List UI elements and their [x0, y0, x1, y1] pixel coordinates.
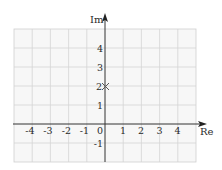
y-tick-label: 3 — [97, 62, 103, 73]
y-tick-label: 4 — [97, 43, 103, 54]
y-tick-label: -1 — [94, 138, 103, 149]
x-tick-labels: -4 -3 -2 -1 0 1 2 3 4 — [25, 125, 180, 136]
x-tick-label: -3 — [43, 125, 52, 136]
x-tick-label: -4 — [25, 125, 34, 136]
y-tick-label: 1 — [97, 100, 103, 111]
x-tick-label: 1 — [120, 125, 126, 136]
real-axis-label: Re — [200, 126, 214, 137]
x-tick-label: -2 — [62, 125, 71, 136]
y-tick-label: 2 — [96, 81, 102, 92]
x-tick-label: -1 — [80, 125, 89, 136]
x-tick-label: 2 — [138, 125, 144, 136]
x-tick-label: 3 — [156, 125, 162, 136]
x-tick-label: 0 — [97, 125, 103, 136]
imaginary-axis-label: Im — [90, 14, 104, 25]
argand-diagram: Re Im -4 -3 -2 -1 0 1 2 3 4 4 3 2 1 -1 — [0, 0, 222, 170]
x-tick-label: 4 — [174, 125, 180, 136]
